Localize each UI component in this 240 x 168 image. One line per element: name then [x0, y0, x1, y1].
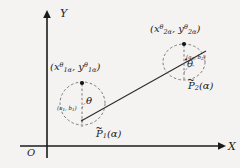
region-2-angle-label: θ: [187, 59, 193, 69]
region-2-point-label: (xθ2α, yθ2α): [150, 24, 200, 35]
region-1-center-marker: [81, 119, 83, 121]
region-1-set-label: ~P1(α): [96, 129, 121, 140]
region-2-point-close: ): [196, 23, 200, 34]
diagram-canvas: Y X O (xθ1α, yθ1α) (a1, b1) θ ~P1(α) (xθ…: [0, 0, 240, 168]
region-2-set-accent: ~: [187, 76, 194, 85]
x-axis: [20, 142, 226, 150]
region-2-center-close: ): [204, 54, 206, 60]
region-1-point-label: (xθ1α, yθ1α): [50, 62, 100, 73]
region-2-set-label: ~P2(α): [188, 81, 213, 92]
region-2-set-symbol-wrap: ~P: [188, 81, 195, 91]
region-1-point-close: ): [96, 61, 100, 72]
region-2-point-x-sub: 2α: [163, 28, 172, 36]
region-1-center-label: (a1, b1): [57, 106, 77, 112]
region-1-set-accent: ~: [95, 124, 102, 133]
region-1-ellipse: [60, 82, 105, 125]
region-2-point-marker: [182, 42, 186, 46]
origin-label: O: [27, 148, 35, 158]
region-1-set-arg: (α): [107, 128, 122, 139]
x-axis-label: X: [228, 141, 236, 152]
region-1-angle-label: θ: [86, 96, 92, 106]
x-axis-arrowhead: [218, 142, 226, 150]
region-1-point-x-sub: 1α: [63, 66, 72, 74]
region-1-set-symbol-wrap: ~P: [96, 129, 103, 139]
y-axis: [43, 10, 51, 158]
region-1-center-close: ): [75, 105, 77, 111]
region-1-point-marker: [80, 81, 84, 85]
y-axis-arrowhead: [43, 10, 51, 18]
region-2-set-arg: (α): [199, 80, 214, 91]
y-axis-label: Y: [60, 8, 67, 19]
